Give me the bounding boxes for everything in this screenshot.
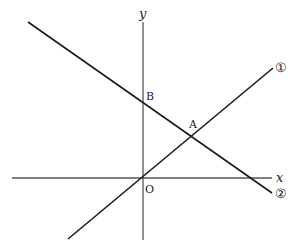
point-a-label: A <box>188 118 198 131</box>
line-1 <box>68 68 273 239</box>
origin-label: O <box>145 183 154 196</box>
x-axis-label: x <box>276 170 284 185</box>
line-1-label: ① <box>275 60 287 75</box>
y-axis-label: y <box>138 6 147 21</box>
line-2-label: ② <box>275 186 287 201</box>
line-2 <box>28 22 272 193</box>
point-b-label: B <box>146 90 154 103</box>
coordinate-diagram: y x O B A ① ② <box>0 0 295 251</box>
